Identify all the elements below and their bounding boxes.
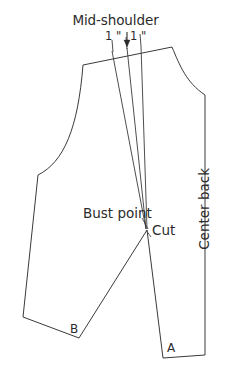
dimension-label-right: 1 "	[130, 31, 146, 43]
point-a-label: A	[167, 342, 175, 354]
dimension-label-left: 1 "	[105, 31, 121, 43]
center-back-label: Center back	[198, 168, 212, 250]
bodice-outline-path	[23, 47, 205, 358]
cut-label: Cut	[152, 224, 175, 238]
pattern-diagram: Mid-shoulder 1 " 1 " Bust point Cut Cent…	[0, 0, 231, 375]
bust-point-label: Bust point	[83, 207, 152, 221]
point-b-label: B	[70, 323, 78, 335]
mid-shoulder-label: Mid-shoulder	[72, 14, 158, 28]
